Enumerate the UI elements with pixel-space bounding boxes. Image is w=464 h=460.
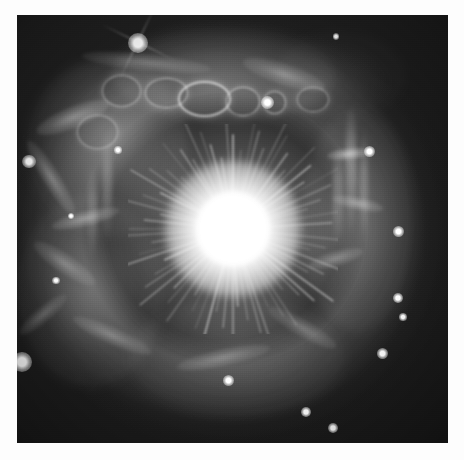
astronomical-image-plate bbox=[17, 15, 448, 443]
screenshot-root bbox=[0, 0, 464, 460]
vignette-overlay bbox=[17, 15, 448, 443]
